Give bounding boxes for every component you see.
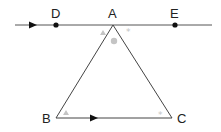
point-e <box>172 22 177 27</box>
angle-marker-asterisk-icon-a-right: * <box>126 27 131 37</box>
angle-marker-circle-icon-a <box>111 38 117 44</box>
geometry-diagram: * * D A E B C <box>0 0 221 132</box>
parallel-arrow-icon-bc <box>90 115 98 122</box>
point-d <box>53 22 58 27</box>
side-ab <box>56 25 113 118</box>
parallel-arrow-icon-de <box>29 22 37 29</box>
label-a: A <box>108 6 117 21</box>
label-b: B <box>42 111 51 126</box>
angle-marker-triangle-icon-b <box>63 110 69 115</box>
side-ac <box>113 25 172 118</box>
label-d: D <box>51 6 60 21</box>
diagram-canvas: * * D A E B C <box>0 0 221 132</box>
angle-marker-asterisk-icon-c: * <box>158 110 163 120</box>
angle-marker-triangle-icon-a-left <box>100 30 106 35</box>
label-c: C <box>177 111 186 126</box>
label-e: E <box>170 6 179 21</box>
